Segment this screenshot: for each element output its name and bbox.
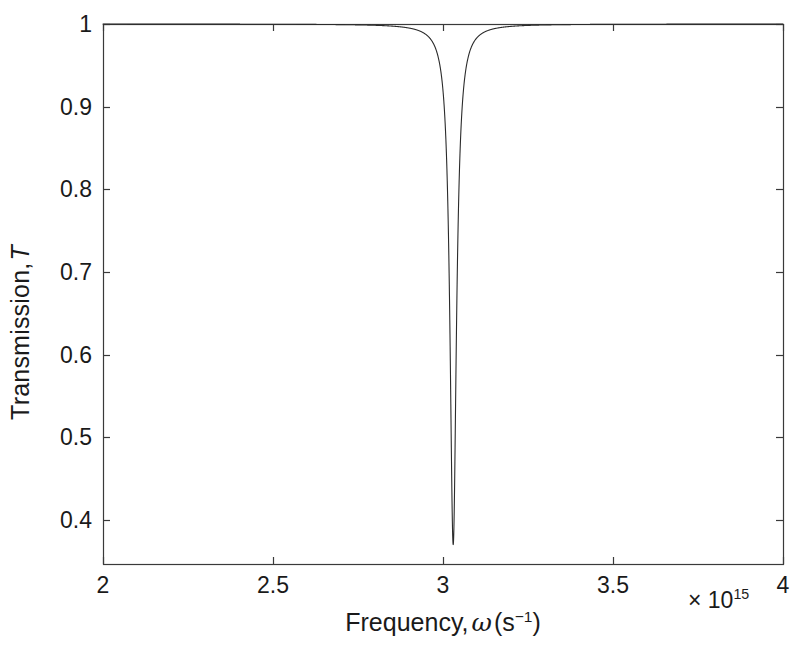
x-tick-label-0: 2 <box>97 572 110 599</box>
x-axis-units-close: ) <box>532 608 540 636</box>
y-tick-label-4: 0.8 <box>60 176 92 203</box>
y-tick-label-2: 0.6 <box>60 341 92 368</box>
exponent-power: 15 <box>733 586 749 602</box>
y-tick-label-1: 0.5 <box>60 424 92 451</box>
x-axis-exponent-multiplier: × 1015 <box>688 586 749 614</box>
y-tick-label-0: 0.4 <box>60 506 92 533</box>
x-axis-label-symbol: ω <box>468 608 493 637</box>
exponent-base: × 10 <box>688 587 733 613</box>
plot-frame <box>104 25 784 565</box>
x-axis-units-base: (s <box>494 608 515 636</box>
transmission-spectrum-figure: Transmission, T Frequency,ω(s−1) × 1015 … <box>0 0 806 665</box>
x-axis-label-text: Frequency, <box>345 608 468 636</box>
x-axis-units-exponent: −1 <box>515 608 533 625</box>
y-tick-label-3: 0.7 <box>60 258 92 285</box>
y-tick-label-5: 0.9 <box>60 93 92 120</box>
x-tick-label-4: 4 <box>777 572 790 599</box>
x-tick-label-3: 3.5 <box>597 572 629 599</box>
plot-canvas <box>0 0 806 665</box>
y-tick-label-6: 1 <box>79 11 92 38</box>
x-tick-label-2: 3 <box>437 572 450 599</box>
x-axis-label: Frequency,ω(s−1) <box>103 608 783 637</box>
x-tick-label-1: 2.5 <box>257 572 289 599</box>
transmission-curve <box>103 24 783 545</box>
